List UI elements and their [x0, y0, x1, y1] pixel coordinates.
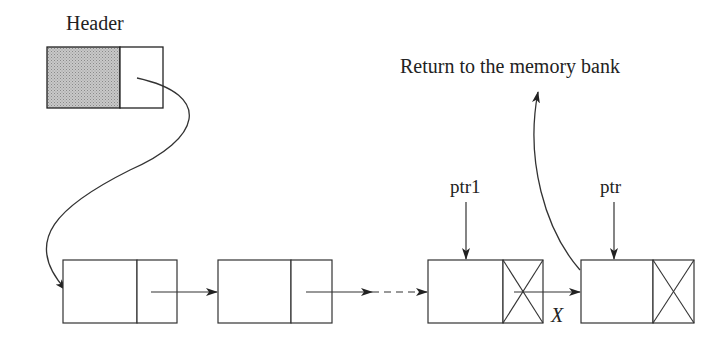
return-arrow [534, 92, 580, 270]
ptr1-label: ptr1 [450, 176, 481, 197]
header-link-arrow [46, 78, 189, 290]
header-label: Header [66, 12, 124, 34]
header-node [47, 47, 163, 108]
linked-list-diagram: Header ptr1 X ptr Return to [0, 0, 726, 352]
ptr-label: ptr [600, 176, 622, 197]
list-node-ptr [581, 260, 694, 323]
cut-mark-label: X [550, 304, 564, 326]
return-label: Return to the memory bank [400, 55, 620, 78]
